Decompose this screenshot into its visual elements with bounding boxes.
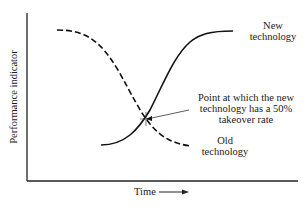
takeover-annotation-line1: Point at which the new: [186, 92, 306, 103]
annotation-pointer: [147, 110, 189, 119]
y-axis-label: Performance indicator: [8, 50, 19, 144]
time-arrow-head: [182, 190, 189, 195]
old-technology-label-line1: Old: [192, 135, 258, 146]
new-technology-label-line2: technology: [240, 31, 306, 42]
old-technology-curve: [57, 30, 190, 146]
takeover-annotation-line2: technology has a 50%: [186, 103, 306, 114]
new-technology-label-line1: New: [240, 20, 306, 31]
old-technology-label-line2: technology: [192, 146, 258, 157]
new-technology-label: New technology: [240, 20, 306, 42]
old-technology-label: Old technology: [192, 135, 258, 157]
x-axis-label: Time: [134, 186, 156, 197]
new-technology-curve: [101, 31, 233, 145]
takeover-annotation: Point at which the new technology has a …: [186, 92, 306, 125]
takeover-annotation-line3: takeover rate: [186, 114, 306, 125]
